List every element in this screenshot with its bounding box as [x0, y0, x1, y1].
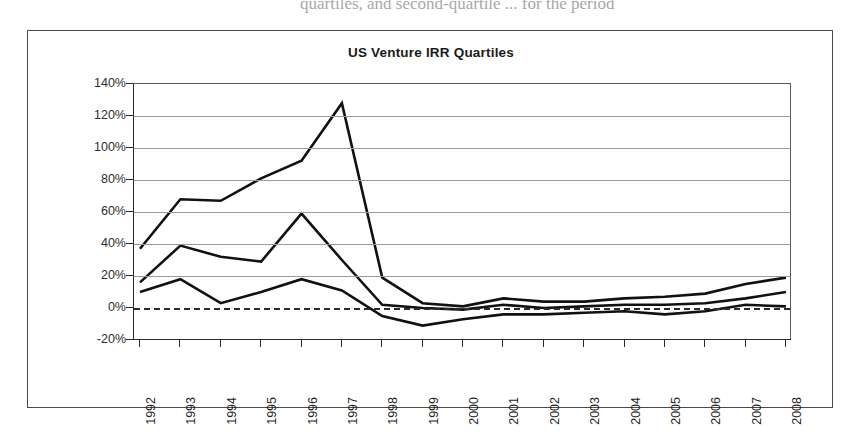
y-axis-tick-label: -20%: [97, 332, 126, 346]
gridline: [134, 244, 790, 245]
x-axis-tick-label: 2001: [507, 397, 521, 425]
gridline: [134, 212, 790, 213]
y-axis-tick-mark: [126, 275, 133, 276]
y-axis-labels: 140%120%100%80%60%40%20%0%-20%: [68, 83, 126, 339]
scan-header-text: quartiles, and second-quartile ... for t…: [300, 0, 614, 14]
x-axis-tick-label: 2007: [750, 397, 764, 425]
x-axis-tick-label: 1992: [144, 397, 158, 425]
series-line-lower-quartile: [140, 279, 786, 325]
y-axis-tick-label: 100%: [94, 140, 126, 154]
x-axis-tick-mark: [179, 340, 180, 347]
x-axis-tick-label: 2006: [709, 397, 723, 425]
x-axis-tick-label: 1997: [346, 397, 360, 425]
x-axis-tick-mark: [543, 340, 544, 347]
y-axis-tick-mark: [126, 147, 133, 148]
y-axis-tick-mark: [126, 115, 133, 116]
y-axis-tick-label: 80%: [101, 172, 126, 186]
gridline: [134, 180, 790, 181]
x-axis-tick-mark: [745, 340, 746, 347]
x-axis-tick-mark: [422, 340, 423, 347]
x-axis-tick-label: 2002: [548, 397, 562, 425]
x-axis-tick-label: 2005: [669, 397, 683, 425]
x-axis-tick-label: 2003: [588, 397, 602, 425]
gridline: [134, 116, 790, 117]
x-axis-tick-mark: [220, 340, 221, 347]
x-axis-line: [133, 339, 791, 340]
y-axis-tick-mark: [126, 211, 133, 212]
x-axis-tick-label: 1996: [306, 397, 320, 425]
y-axis-tick-mark: [126, 179, 133, 180]
x-axis-tick-mark: [624, 340, 625, 347]
x-axis-tick-label: 1993: [184, 397, 198, 425]
x-axis-tick-label: 1998: [386, 397, 400, 425]
y-axis-tick-label: 0%: [108, 300, 126, 314]
y-axis-tick-label: 140%: [94, 76, 126, 90]
x-axis-tick-label: 1995: [265, 397, 279, 425]
x-axis-tick-label: 2000: [467, 397, 481, 425]
y-axis-tick-label: 120%: [94, 108, 126, 122]
y-axis-tick-mark: [126, 307, 133, 308]
x-axis-tick-label: 2008: [790, 397, 804, 425]
x-axis-tick-mark: [704, 340, 705, 347]
x-axis-tick-label: 1994: [225, 397, 239, 425]
x-axis-tick-mark: [462, 340, 463, 347]
scanned-page-header: quartiles, and second-quartile ... for t…: [0, 0, 861, 26]
x-axis-tick-mark: [502, 340, 503, 347]
x-axis-labels: 1992199319941995199619971998199920002001…: [133, 349, 791, 419]
x-axis-tick-mark: [260, 340, 261, 347]
x-axis-tick-label: 1999: [427, 397, 441, 425]
gridline: [134, 276, 790, 277]
x-axis-tick-mark: [341, 340, 342, 347]
x-axis-tick-mark: [583, 340, 584, 347]
x-axis-tick-mark: [381, 340, 382, 347]
chart-title: US Venture IRR Quartiles: [28, 45, 834, 60]
y-axis-tick-label: 60%: [101, 204, 126, 218]
y-axis-tick-mark: [126, 243, 133, 244]
zero-reference-line: [134, 308, 790, 310]
x-axis-tick-mark: [664, 340, 665, 347]
y-axis-tick-label: 20%: [101, 268, 126, 282]
y-axis-tick-label: 40%: [101, 236, 126, 250]
plot-area: [133, 83, 791, 339]
y-axis-tick-mark: [126, 339, 133, 340]
x-axis-tick-mark: [785, 340, 786, 347]
x-axis-tick-label: 2004: [629, 397, 643, 425]
y-axis-tick-mark: [126, 83, 133, 84]
x-axis-tick-mark: [139, 340, 140, 347]
x-axis-tick-mark: [301, 340, 302, 347]
chart-figure-frame: US Venture IRR Quartiles 140%120%100%80%…: [27, 30, 833, 408]
gridline: [134, 148, 790, 149]
